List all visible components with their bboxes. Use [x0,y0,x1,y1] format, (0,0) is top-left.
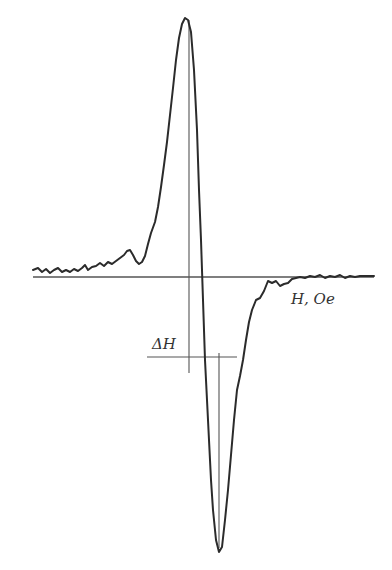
spectrum-curve [33,18,374,552]
epr-spectrum-chart: ΔH H, Oe [0,0,392,570]
x-axis-label: H, Oe [290,290,335,308]
delta-h-label: ΔH [151,335,177,353]
